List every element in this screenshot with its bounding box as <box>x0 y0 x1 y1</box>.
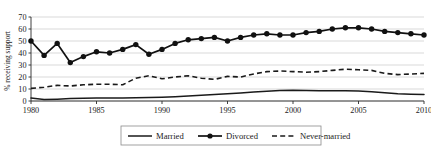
line-chart: % receiving support 010203040506070 1980… <box>0 0 431 149</box>
data-point-divorced <box>133 42 138 47</box>
y-tick-label: 30 <box>18 61 26 70</box>
y-tick-label: 40 <box>18 49 26 58</box>
data-point-divorced <box>330 26 335 31</box>
data-point-divorced <box>238 35 243 40</box>
data-point-divorced <box>356 25 361 30</box>
data-point-divorced <box>251 32 256 37</box>
data-point-divorced <box>94 49 99 54</box>
x-tick-label: 1995 <box>219 106 235 115</box>
y-axis-title: % receiving support <box>3 30 12 90</box>
data-point-divorced <box>225 38 230 43</box>
x-tick-label: 2010 <box>416 106 431 115</box>
data-point-divorced <box>68 60 73 65</box>
y-axis-title-group: % receiving support <box>3 30 12 90</box>
data-point-divorced <box>212 35 217 40</box>
data-point-divorced <box>120 47 125 52</box>
data-point-divorced <box>186 37 191 42</box>
gridlines <box>31 17 424 101</box>
y-tick-label: 50 <box>18 37 26 46</box>
x-tick-label: 2005 <box>350 106 366 115</box>
y-tick-label: 60 <box>18 25 26 34</box>
x-axis-tick-labels: 1980198519901995200020052010 <box>23 106 431 115</box>
legend-label-married: Married <box>156 131 184 141</box>
y-tick-label: 70 <box>18 13 26 22</box>
data-point-divorced <box>382 29 387 34</box>
x-tick-label: 1990 <box>154 106 170 115</box>
data-point-divorced <box>277 32 282 37</box>
data-point-divorced <box>159 47 164 52</box>
y-tick-label: 10 <box>18 85 26 94</box>
data-point-divorced <box>317 29 322 34</box>
data-point-divorced <box>41 53 46 58</box>
y-axis-tick-labels: 010203040506070 <box>18 13 26 106</box>
series-line-never-married <box>31 69 424 88</box>
x-tick-label: 1985 <box>88 106 104 115</box>
data-point-divorced <box>107 50 112 55</box>
data-point-divorced <box>303 30 308 35</box>
data-point-divorced <box>395 30 400 35</box>
data-point-divorced <box>408 31 413 36</box>
data-point-divorced <box>28 38 33 43</box>
legend-label-never-married: Never-married <box>300 131 351 141</box>
chart-container: % receiving support 010203040506070 1980… <box>0 0 431 149</box>
data-point-divorced <box>369 26 374 31</box>
data-point-divorced <box>290 32 295 37</box>
series-markers-divorced <box>28 25 426 65</box>
series-line-married <box>31 90 424 99</box>
data-point-divorced <box>343 25 348 30</box>
legend-marker-divorced-icon <box>207 133 212 138</box>
data-point-divorced <box>199 36 204 41</box>
series-line-divorced <box>31 28 424 63</box>
data-point-divorced <box>421 32 426 37</box>
x-tick-label: 1980 <box>23 106 39 115</box>
x-tick-label: 2000 <box>285 106 301 115</box>
data-point-divorced <box>264 31 269 36</box>
data-point-divorced <box>172 41 177 46</box>
legend-label-divorced: Divorced <box>226 131 259 141</box>
legend: Married Divorced Never-married <box>121 126 351 145</box>
y-tick-label: 20 <box>18 73 26 82</box>
data-point-divorced <box>81 54 86 59</box>
y-tick-label: 0 <box>22 97 26 106</box>
data-point-divorced <box>55 41 60 46</box>
data-point-divorced <box>146 52 151 57</box>
